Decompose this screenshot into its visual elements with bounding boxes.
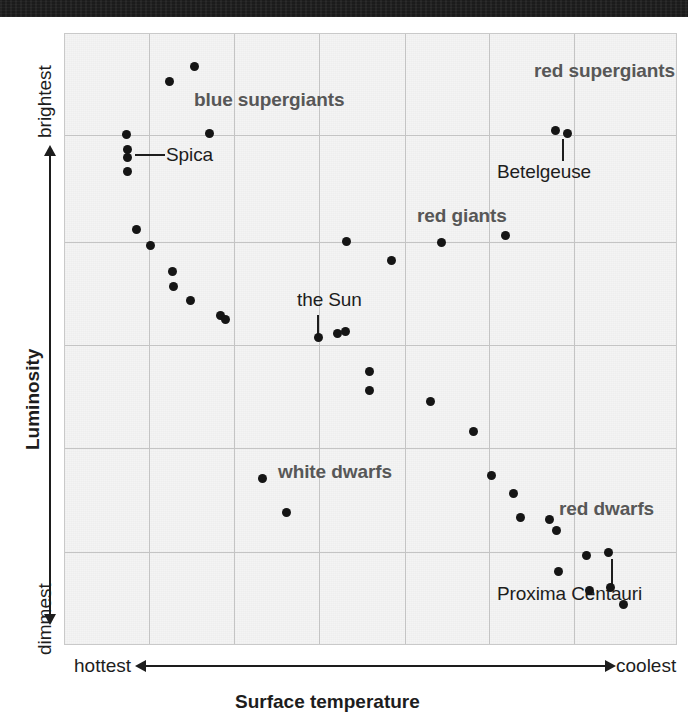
y-axis-top-label: brightest <box>34 65 56 138</box>
data-point-red-dwarf <box>582 551 591 560</box>
region-label-white-dwarfs: white dwarfs <box>278 461 392 483</box>
data-point <box>426 397 435 406</box>
x-axis-arrow-shaft <box>146 665 606 667</box>
y-axis-arrow-shaft <box>49 155 51 615</box>
data-point-red-giant <box>437 238 446 247</box>
data-point-spica-group <box>122 130 131 139</box>
data-point-red-supergiant <box>551 126 560 135</box>
y-axis-arrow-up <box>44 145 56 156</box>
region-label-blue-supergiants: blue supergiants <box>194 89 344 111</box>
x-axis-arrow-left <box>135 660 146 672</box>
spica-leader-line <box>135 154 165 156</box>
data-point <box>365 367 374 376</box>
gridline-horizontal <box>65 345 676 346</box>
data-point <box>221 315 230 324</box>
region-label-red-dwarfs: red dwarfs <box>559 498 654 520</box>
annotation-betelgeuse: Betelgeuse <box>497 161 591 183</box>
data-point-red-dwarf <box>552 526 561 535</box>
data-point <box>169 282 178 291</box>
hr-diagram-figure: brightest Luminosity dimmest blue superg… <box>0 0 688 728</box>
data-point-red-dwarf <box>585 586 594 595</box>
y-axis-title: Luminosity <box>22 349 44 450</box>
data-point-spica <box>123 153 132 162</box>
data-point <box>190 62 199 71</box>
annotation-spica: Spica <box>166 144 213 166</box>
data-point-red-giant <box>342 237 351 246</box>
region-label-red-supergiants: red supergiants <box>534 60 675 82</box>
gridline-horizontal <box>65 135 676 136</box>
y-axis-arrow-down <box>44 614 56 625</box>
data-point-white-dwarf <box>282 508 291 517</box>
data-point <box>165 77 174 86</box>
data-point <box>146 241 155 250</box>
region-label-red-giants: red giants <box>417 205 507 227</box>
x-axis-left-label: hottest <box>74 655 131 677</box>
x-axis-right-label: coolest <box>616 655 676 677</box>
data-point-the-sun <box>314 333 323 342</box>
cropped-header-band <box>0 0 688 17</box>
data-point <box>168 267 177 276</box>
data-point <box>205 129 214 138</box>
data-point <box>186 296 195 305</box>
data-point-red-dwarf <box>606 583 615 592</box>
annotation-the-sun: the Sun <box>297 289 362 311</box>
data-point <box>509 489 518 498</box>
plot-area: blue supergiants red supergiants red gia… <box>64 33 677 645</box>
x-axis-arrow-right <box>605 660 616 672</box>
data-point <box>469 427 478 436</box>
data-point-proxima-centauri <box>619 600 628 609</box>
data-point-white-dwarf <box>258 474 267 483</box>
x-axis-title: Surface temperature <box>235 691 420 713</box>
proxima-centauri-leader-line <box>611 559 613 585</box>
data-point <box>365 386 374 395</box>
data-point-red-dwarf <box>545 515 554 524</box>
data-point-red-dwarf <box>516 513 525 522</box>
data-point-red-giant <box>501 231 510 240</box>
data-point-spica-group <box>123 167 132 176</box>
data-point-betelgeuse <box>563 129 572 138</box>
data-point-red-giant <box>387 256 396 265</box>
data-point-red-dwarf <box>554 567 563 576</box>
data-point-red-dwarf <box>604 548 613 557</box>
gridline-horizontal <box>65 242 676 243</box>
betelgeuse-leader-line <box>562 139 564 161</box>
gridline-horizontal <box>65 448 676 449</box>
data-point <box>487 471 496 480</box>
data-point <box>341 327 350 336</box>
data-point <box>132 225 141 234</box>
